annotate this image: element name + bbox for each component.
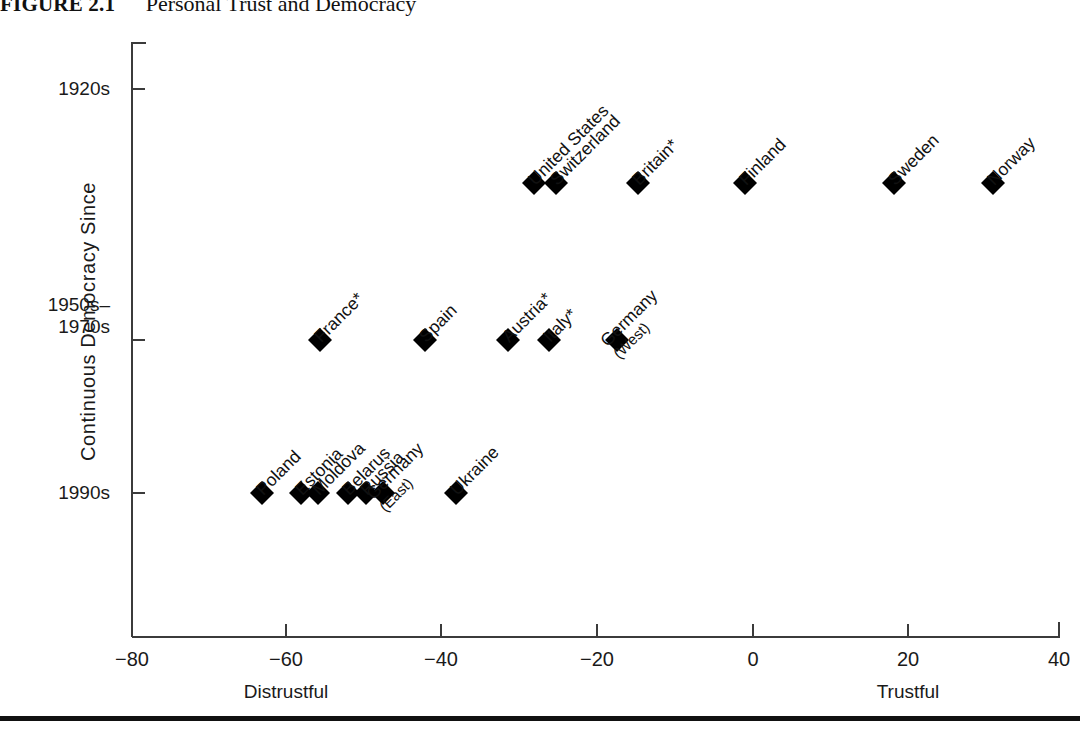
- figure-bottom-rule: [0, 716, 1080, 721]
- y-tick-label-1920s: 1920s: [0, 78, 110, 100]
- x-tick-label--40: −40: [401, 648, 481, 671]
- x-tick-label--60: −60: [246, 648, 326, 671]
- x-axis-spine: [132, 622, 1059, 637]
- y-tick-label-1950s-1970s: 1950s– 1970s: [0, 294, 110, 338]
- x-tick-label-20: 20: [868, 648, 948, 671]
- plot-axes: [0, 0, 1080, 700]
- x-axis-high-label: Trustful: [828, 681, 988, 703]
- y-axis-ticks: [132, 89, 145, 493]
- y-tick-label-line2: 1970s: [0, 316, 110, 338]
- scatter-plot: Continuous Democracy Since 1920s 1950s– …: [0, 0, 1080, 700]
- x-tick-label--80: −80: [92, 648, 172, 671]
- y-tick-label-1990s: 1990s: [0, 482, 110, 504]
- y-tick-label-line1: 1950s–: [0, 294, 110, 316]
- x-tick-label--20: −20: [557, 648, 637, 671]
- x-axis-ticks: [286, 624, 908, 637]
- x-tick-label-40: 40: [1019, 648, 1080, 671]
- x-tick-label-0: 0: [713, 648, 793, 671]
- x-axis-low-label: Distrustful: [206, 681, 366, 703]
